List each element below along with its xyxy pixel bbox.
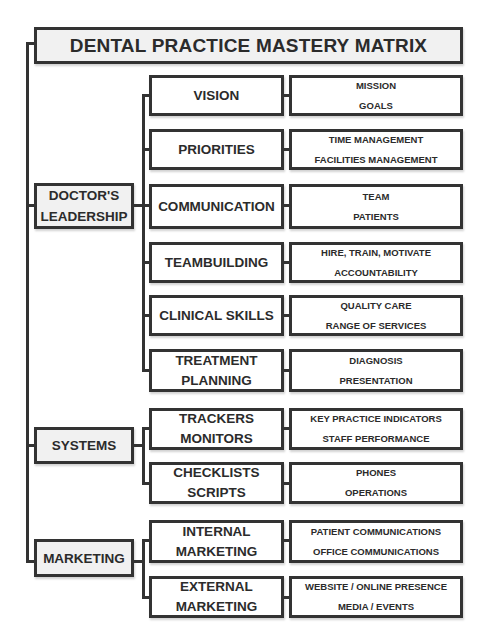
detail-item: STAFF PERFORMANCE bbox=[323, 429, 430, 449]
category-checklists-scripts: CHECKLISTS SCRIPTS bbox=[149, 462, 284, 504]
group-label-line: MARKETING bbox=[43, 548, 125, 569]
details-teambuilding: HIRE, TRAIN, MOTIVATE ACCOUNTABILITY bbox=[289, 242, 463, 283]
detail-item: WEBSITE / ONLINE PRESENCE bbox=[305, 577, 447, 597]
detail-item: TEAM bbox=[363, 187, 390, 207]
category-treatment-planning: TREATMENT PLANNING bbox=[149, 349, 284, 392]
detail-item: MEDIA / EVENTS bbox=[338, 597, 414, 617]
category-label-line: PLANNING bbox=[181, 371, 252, 391]
category-priorities: PRIORITIES bbox=[149, 129, 284, 170]
group-systems: SYSTEMS bbox=[34, 427, 134, 464]
category-label-line: TREATMENT bbox=[175, 351, 257, 371]
detail-item: KEY PRACTICE INDICATORS bbox=[310, 409, 441, 429]
category-teambuilding: TEAMBUILDING bbox=[149, 242, 284, 283]
category-label-line: EXTERNAL bbox=[180, 577, 253, 597]
category-communication: COMMUNICATION bbox=[149, 184, 284, 229]
category-external-marketing: EXTERNAL MARKETING bbox=[149, 576, 284, 618]
detail-item: PATIENT COMMUNICATIONS bbox=[311, 522, 441, 542]
category-internal-marketing: INTERNAL MARKETING bbox=[149, 520, 284, 563]
category-label-line: CHECKLISTS bbox=[173, 463, 259, 483]
category-label-line: MARKETING bbox=[176, 597, 258, 617]
detail-item: OFFICE COMMUNICATIONS bbox=[313, 542, 439, 562]
details-priorities: TIME MANAGEMENT FACILITIES MANAGEMENT bbox=[289, 129, 463, 170]
category-trackers-monitors: TRACKERS MONITORS bbox=[149, 408, 284, 450]
category-label-line: INTERNAL bbox=[182, 522, 250, 542]
category-label-line: TEAMBUILDING bbox=[165, 253, 269, 273]
details-communication: TEAM PATIENTS bbox=[289, 184, 463, 229]
main-spine-connector bbox=[26, 42, 29, 563]
category-label-line: TRACKERS bbox=[179, 409, 254, 429]
details-trackers-monitors: KEY PRACTICE INDICATORS STAFF PERFORMANC… bbox=[289, 408, 463, 450]
category-label-line: MARKETING bbox=[176, 542, 258, 562]
category-label-line: CLINICAL SKILLS bbox=[159, 306, 274, 326]
group-label-line: LEADERSHIP bbox=[40, 206, 127, 227]
details-clinical-skills: QUALITY CARE RANGE OF SERVICES bbox=[289, 295, 463, 336]
marketing-bracket bbox=[142, 539, 145, 599]
detail-item: PHONES bbox=[356, 463, 396, 483]
detail-item: FACILITIES MANAGEMENT bbox=[315, 150, 438, 170]
detail-item: ACCOUNTABILITY bbox=[334, 263, 418, 283]
category-label-line: PRIORITIES bbox=[178, 140, 255, 160]
category-label-line: VISION bbox=[194, 86, 240, 106]
matrix-title: DENTAL PRACTICE MASTERY MATRIX bbox=[34, 27, 463, 64]
detail-item: MISSION bbox=[356, 76, 396, 96]
category-label-line: SCRIPTS bbox=[187, 483, 246, 503]
detail-item: QUALITY CARE bbox=[340, 296, 411, 316]
detail-item: PATIENTS bbox=[353, 207, 399, 227]
group-label-line: DOCTOR'S bbox=[49, 185, 119, 206]
group-label-line: SYSTEMS bbox=[52, 435, 117, 456]
detail-item: RANGE OF SERVICES bbox=[326, 316, 427, 336]
details-checklists-scripts: PHONES OPERATIONS bbox=[289, 462, 463, 504]
detail-item: HIRE, TRAIN, MOTIVATE bbox=[321, 243, 431, 263]
details-internal-marketing: PATIENT COMMUNICATIONS OFFICE COMMUNICAT… bbox=[289, 520, 463, 563]
title-connector bbox=[26, 42, 35, 45]
group-doctors-leadership: DOCTOR'S LEADERSHIP bbox=[34, 183, 134, 229]
category-label-line: COMMUNICATION bbox=[158, 197, 275, 217]
category-vision: VISION bbox=[149, 75, 284, 116]
detail-item: PRESENTATION bbox=[339, 371, 412, 391]
details-treatment-planning: DIAGNOSIS PRESENTATION bbox=[289, 349, 463, 392]
detail-item: DIAGNOSIS bbox=[349, 351, 402, 371]
group-marketing: MARKETING bbox=[34, 539, 134, 577]
matrix-title-text: DENTAL PRACTICE MASTERY MATRIX bbox=[70, 35, 428, 57]
detail-item: TIME MANAGEMENT bbox=[329, 130, 423, 150]
details-external-marketing: WEBSITE / ONLINE PRESENCE MEDIA / EVENTS bbox=[289, 576, 463, 618]
leadership-bracket bbox=[142, 94, 145, 372]
category-label-line: MONITORS bbox=[180, 429, 253, 449]
details-vision: MISSION GOALS bbox=[289, 75, 463, 116]
detail-item: OPERATIONS bbox=[345, 483, 407, 503]
category-clinical-skills: CLINICAL SKILLS bbox=[149, 295, 284, 336]
systems-bracket bbox=[142, 427, 145, 484]
detail-item: GOALS bbox=[359, 96, 393, 116]
